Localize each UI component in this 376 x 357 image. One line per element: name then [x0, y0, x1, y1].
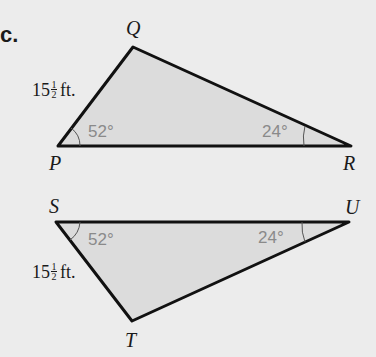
vertex-label-p: P	[49, 153, 61, 173]
angle-label-p: 52°	[88, 123, 114, 140]
angle-label-s: 52°	[88, 231, 114, 248]
fraction-numerator: 1	[52, 262, 57, 271]
fraction-numerator: 1	[52, 80, 57, 89]
vertex-label-s: S	[49, 196, 59, 216]
vertex-label-u: U	[345, 197, 359, 217]
angle-label-u: 24°	[258, 229, 284, 246]
geometry-figure: c. Q P R 52° 24° 15 1 2 ft. S U T 52° 24…	[0, 0, 376, 357]
side-length-pq: 15 1 2 ft.	[32, 80, 76, 99]
length-whole: 15	[32, 81, 50, 99]
vertex-label-t: T	[125, 330, 136, 350]
side-length-st: 15 1 2 ft.	[32, 262, 76, 281]
length-fraction: 1 2	[51, 80, 57, 99]
length-whole: 15	[32, 263, 50, 281]
vertex-label-q: Q	[126, 18, 140, 38]
vertex-label-r: R	[343, 153, 355, 173]
length-unit: ft.	[60, 81, 76, 99]
angle-label-r: 24°	[262, 123, 288, 140]
fraction-denominator: 2	[52, 272, 57, 281]
triangles-drawing	[0, 0, 376, 357]
fraction-denominator: 2	[52, 90, 57, 99]
length-fraction: 1 2	[51, 262, 57, 281]
length-unit: ft.	[60, 263, 76, 281]
part-label: c.	[0, 24, 18, 46]
